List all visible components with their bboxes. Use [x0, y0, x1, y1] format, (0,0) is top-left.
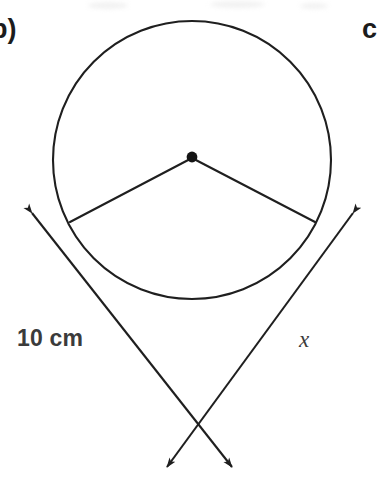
part-label-b: b): [0, 14, 16, 45]
radius-left: [70, 158, 192, 222]
unknown-label: x: [299, 327, 309, 353]
part-label-c: c: [362, 14, 377, 45]
length-label: 10 cm: [17, 325, 83, 352]
ray-right-descending: [167, 213, 353, 467]
circle-center-dot: [187, 152, 198, 163]
diagram-page: b) c 10 cm x: [0, 0, 377, 483]
radius-right: [192, 158, 315, 222]
geometry-figure: [0, 0, 377, 483]
